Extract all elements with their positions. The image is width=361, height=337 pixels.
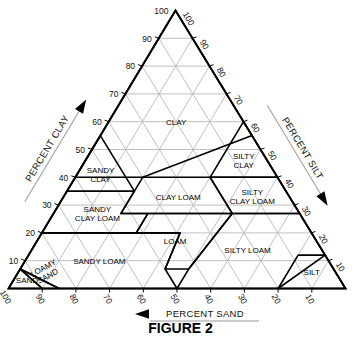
axis-title-percent-sand: PERCENT SAND [166,308,244,319]
tick-label-sand-40: 40 [202,292,216,305]
tick-label-sand-100: 100 [0,288,14,306]
tick-label-clay-10: 10 [9,256,19,266]
tick-label-clay-100: 100 [154,6,168,16]
class-label-silty-loam: SILTY LOAM [224,246,271,255]
figure-caption: FIGURE 2 [0,320,361,337]
tick-label-clay-30: 30 [42,200,52,210]
tick-label-clay-70: 70 [109,89,119,99]
class-label-loam: LOAM [164,237,187,246]
left-arrow-icon [135,309,149,318]
class-label-sandy-clay-loam: SANDYCLAY LOAM [75,205,120,223]
tick-label-sand-20: 20 [270,292,284,305]
tick-label-sand-60: 60 [135,292,149,305]
tick-label-clay-50: 50 [76,145,86,155]
class-label-clay-loam: CLAY LOAM [156,193,201,202]
ternary-diagram-svg: 1020304050607080901001020304050607080901… [0,0,361,337]
class-label-silt: SILT [304,268,320,277]
tick-label-clay-40: 40 [59,173,69,183]
class-label-sandy-loam: SANDY LOAM [73,257,126,266]
tick-label-clay-20: 20 [25,228,35,238]
tick-label-clay-60: 60 [92,117,102,127]
tick-label-clay-80: 80 [126,61,136,71]
tick-label-sand-10: 10 [303,292,317,305]
class-label-clay: CLAY [166,118,187,127]
tick-label-clay-90: 90 [142,34,152,44]
tick-label-sand-30: 30 [236,292,250,305]
class-label-silty-clay-loam: SILTYCLAY LOAM [230,188,275,206]
class-label-silty-clay: SILTYCLAY [233,152,255,170]
class-label-sand: SAND [16,276,38,285]
tick-label-sand-90: 90 [34,292,48,305]
tick-label-sand-80: 80 [67,292,81,305]
gridlines-group [25,38,328,288]
tick-label-sand-50: 50 [169,292,183,305]
tick-label-sand-70: 70 [101,292,115,305]
soil-texture-triangle-figure: 1020304050607080901001020304050607080901… [0,0,361,337]
axis-title-percent-silt: PERCENT SILT [280,115,326,181]
